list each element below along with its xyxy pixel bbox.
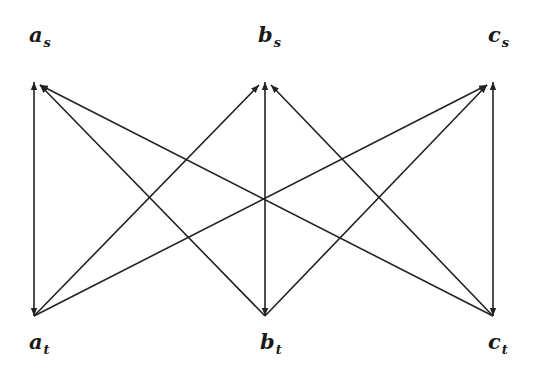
edge-b_t-to-c_s-arrow xyxy=(265,85,487,316)
node-label-subscript: t xyxy=(44,342,50,357)
node-label-c_t: ct xyxy=(488,331,508,352)
edge-b_t-to-a_s-arrow xyxy=(40,85,265,316)
node-label-subscript: t xyxy=(502,342,508,357)
node-label-b_t: bt xyxy=(260,331,282,352)
edge-c_t-to-b_s-arrow xyxy=(271,85,493,316)
graph-edges xyxy=(0,0,537,377)
edge-a_t-to-c_s-arrow xyxy=(34,85,487,316)
graph-diagram: asbscsatbtct xyxy=(0,0,537,377)
node-label-base: c xyxy=(488,22,501,47)
node-label-subscript: s xyxy=(44,35,51,50)
node-label-a_t: at xyxy=(29,331,50,352)
node-label-base: a xyxy=(29,329,43,354)
edge-c_t-to-a_s-arrow xyxy=(40,85,493,316)
node-label-subscript: t xyxy=(276,342,282,357)
node-label-base: a xyxy=(29,22,43,47)
edge-a_t-to-b_s-arrow xyxy=(34,85,259,316)
node-label-base: b xyxy=(260,329,275,354)
node-label-base: c xyxy=(488,329,501,354)
node-label-subscript: s xyxy=(502,35,509,50)
node-label-c_s: cs xyxy=(488,24,509,45)
node-label-b_s: bs xyxy=(258,24,281,45)
node-label-subscript: s xyxy=(274,35,281,50)
node-label-a_s: as xyxy=(29,24,51,45)
node-label-base: b xyxy=(258,22,273,47)
